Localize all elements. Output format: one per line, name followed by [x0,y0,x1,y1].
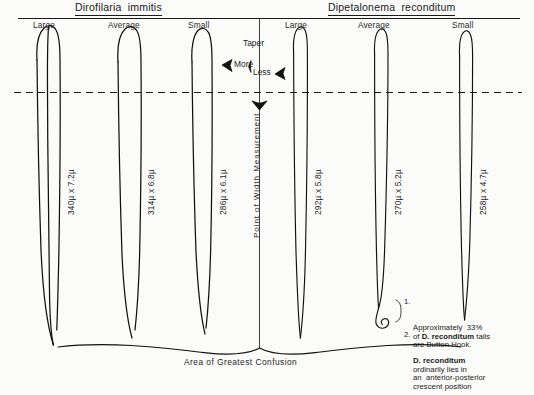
note-2-body: D. reconditumordinarily lies inan anteri… [413,357,532,392]
group-title-reconditum: Dipetalonema reconditum [328,2,455,16]
column-head-immitis-large: Large [33,21,55,30]
worm-immitis-small [192,28,212,334]
measurement-reconditum-large: 292µ x 5.8µ [314,169,323,215]
figure-caption: Area of Greatest Confusion [184,358,297,367]
column-head-reconditum-large: Large [285,21,307,30]
worm-reconditum-average [374,29,388,328]
notes-leader [396,300,401,322]
worm-immitis-average [118,27,141,338]
measurement-reconditum-small: 258µ x 4.7µ [479,169,488,215]
column-head-reconditum-average: Average [358,21,390,30]
taper-heading: Taper [243,39,264,48]
measurement-immitis-small: 286µ x 6.1µ [219,169,228,215]
note-2-number: 2. [404,331,411,340]
worm-reconditum-small [459,31,472,320]
taper-more-label: More [234,60,253,69]
center-axis-label: Point of Width Measurement [252,112,261,238]
worm-immitis-large [37,26,60,345]
button-hook-tail [376,308,389,328]
note-1-number: 1. [404,298,411,307]
measurement-immitis-large: 340µ x 7.2µ [67,169,76,215]
note-2-line-4: crescent position [413,382,472,391]
group-title-immitis: Dirofilaria immitis [75,2,162,16]
note-2: 2. D. reconditumordinarily lies inan ant… [404,331,532,395]
worm-reconditum-large [293,27,307,338]
column-head-immitis-average: Average [108,21,140,30]
column-head-reconditum-small: Small [452,21,474,30]
column-head-immitis-small: Small [188,21,210,30]
measurement-immitis-average: 314µ x 6.8µ [147,169,156,215]
measurement-reconditum-average: 270µ x 5.2µ [394,169,403,215]
taper-less-label: Less [253,68,271,77]
taper-more-arrow [222,60,232,72]
taper-less-arrow-right [275,68,285,80]
